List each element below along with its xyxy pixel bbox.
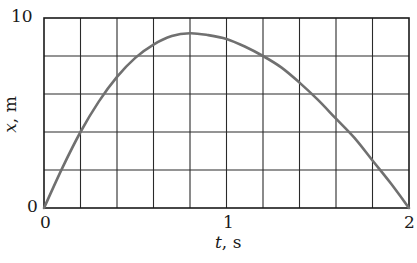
x-axis-unit: , s bbox=[222, 232, 242, 252]
y-axis-label: x, m bbox=[2, 96, 19, 133]
x-axis-label: t, s bbox=[215, 234, 241, 251]
y-tick-label-top: 10 bbox=[11, 8, 33, 25]
y-axis-variable: x bbox=[0, 123, 20, 133]
x-axis-variable: t bbox=[215, 232, 222, 252]
x-tick-label-2: 2 bbox=[404, 214, 415, 231]
x-tick-label-1: 1 bbox=[223, 214, 234, 231]
grid-lines bbox=[44, 18, 409, 208]
chart-plot bbox=[0, 0, 417, 263]
y-axis-unit: , m bbox=[0, 96, 20, 123]
x-tick-label-0: 0 bbox=[40, 214, 51, 231]
y-tick-label-bottom: 0 bbox=[27, 198, 38, 215]
